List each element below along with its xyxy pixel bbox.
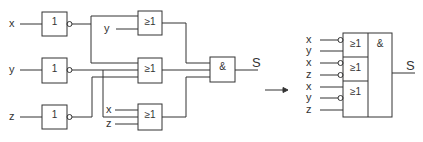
and-symbol: & [368,39,392,49]
right-input-label: y [306,45,312,56]
right-input-label: z [306,104,312,115]
logic-diagram: x y z 1 1 1 y x z ≥1 ≥1 ≥1 & S x y x z x… [0,0,423,142]
or-symbol: ≥1 [138,110,162,120]
not-symbol: 1 [42,17,67,27]
and-symbol: & [210,62,235,72]
output-label-s: S [252,56,261,69]
or3-input-label-z: z [106,118,112,129]
or1-input-label-y: y [104,23,110,34]
or-symbol: ≥1 [343,63,368,73]
input-label-z: z [9,111,15,122]
right-input-label: x [306,57,312,68]
right-input-label: z [306,69,312,80]
or-symbol: ≥1 [343,39,368,49]
or-symbol: ≥1 [138,17,162,27]
output-label-s: S [406,59,415,72]
not-symbol: 1 [42,110,67,120]
input-label-x: x [9,18,15,29]
or-symbol: ≥1 [138,64,162,74]
not-symbol: 1 [42,64,67,74]
or-symbol: ≥1 [343,87,368,97]
right-input-label: y [306,92,312,103]
input-label-y: y [9,64,15,75]
or3-input-label-x: x [106,104,112,115]
